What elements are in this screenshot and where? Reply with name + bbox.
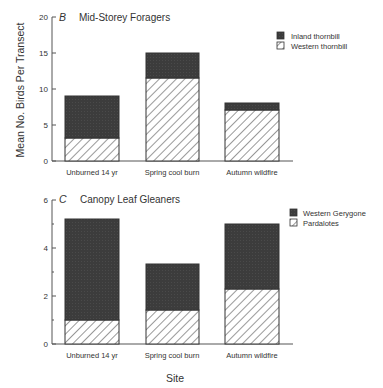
y-ticks: [52, 17, 56, 161]
x-axis-label: Site: [166, 372, 184, 384]
legend-label: Western thornbill: [291, 42, 347, 51]
y-tick-label: 0: [44, 157, 49, 166]
x-tick-label: Unburned 14 yr: [66, 351, 118, 360]
legend-swatch-dark: [277, 32, 284, 39]
y-tick-label: 15: [39, 49, 48, 58]
y-ticks: [52, 200, 56, 344]
legend-label: Pardalotes: [303, 219, 339, 228]
figure: Mean No. Birds Per Transect 20 15 10 5 0…: [0, 0, 383, 388]
x-tick-label: Spring cool burn: [145, 168, 200, 177]
legend-label: Inland thornbill: [291, 32, 340, 41]
legend: Western Gerygone Pardalotes: [290, 209, 366, 228]
bar-unburned: [65, 96, 119, 161]
x-tick-label: Autumn wildfire: [226, 351, 277, 360]
y-tick-label: 5: [44, 121, 49, 130]
bar-autumn-wildfire: [225, 224, 279, 344]
y-tick-label: 0: [44, 340, 49, 349]
legend: Inland thornbill Western thornbill: [277, 32, 347, 51]
bar-spring-cool-burn: [146, 264, 199, 344]
panel-title: Mid-Storey Foragers: [79, 12, 170, 23]
panel-c-canopy-leaf-gleaners: 6 4 2 0 C Canopy Leaf Gleaners Unburned …: [44, 193, 366, 360]
bar-spring-cool-burn: [146, 53, 199, 161]
bar-autumn-wildfire: [225, 103, 279, 161]
y-tick-label: 20: [39, 13, 48, 22]
y-tick-label: 6: [44, 196, 49, 205]
panel-b-mid-storey-foragers: 20 15 10 5 0 B Mid-Storey Foragers Unbur…: [39, 11, 347, 177]
y-tick-label: 2: [44, 292, 49, 301]
x-tick-label: Autumn wildfire: [226, 168, 277, 177]
y-tick-label: 4: [44, 244, 49, 253]
panel-letter: B: [59, 11, 66, 23]
panel-letter: C: [59, 193, 67, 205]
x-tick-label: Unburned 14 yr: [66, 168, 118, 177]
legend-swatch-hatched: [290, 219, 297, 226]
y-tick-label: 10: [39, 85, 48, 94]
y-axis-label: Mean No. Birds Per Transect: [14, 23, 26, 158]
legend-swatch-hatched: [277, 42, 284, 49]
panel-title: Canopy Leaf Gleaners: [80, 194, 180, 205]
legend-swatch-dark: [290, 209, 297, 216]
x-tick-label: Spring cool burn: [145, 351, 200, 360]
bar-unburned: [65, 219, 119, 344]
legend-label: Western Gerygone: [303, 209, 366, 218]
